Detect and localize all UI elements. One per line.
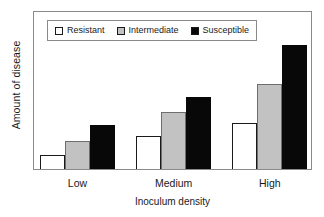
bar-intermediate-low — [65, 141, 90, 169]
bar-intermediate-high — [257, 84, 282, 169]
legend-label-intermediate: Intermediate — [129, 26, 179, 35]
x-tick-label-high: High — [259, 177, 281, 189]
bar-susceptible-low — [90, 125, 115, 169]
bar-resistant-low — [40, 155, 65, 169]
black-square-swatch — [191, 27, 199, 35]
bar-susceptible-high — [282, 45, 307, 169]
bar-intermediate-medium — [161, 112, 186, 169]
x-tick-label-low: Low — [68, 177, 87, 189]
bar-chart-figure: Amount of disease Resistant Intermediate… — [0, 0, 324, 217]
x-tick-label-medium: Medium — [155, 177, 192, 189]
white-square-swatch — [55, 27, 63, 35]
x-axis-title: Inoculum density — [33, 196, 312, 207]
chart-legend: Resistant Intermediate Susceptible — [47, 20, 257, 41]
gray-square-swatch — [117, 27, 125, 35]
legend-entry-intermediate: Intermediate — [117, 26, 179, 35]
y-axis-title: Amount of disease — [0, 0, 33, 170]
y-axis-title-label: Amount of disease — [11, 41, 23, 130]
bar-resistant-high — [232, 123, 257, 169]
plot-frame: Resistant Intermediate Susceptible — [33, 11, 312, 170]
legend-label-resistant: Resistant — [67, 26, 105, 35]
bar-susceptible-medium — [186, 97, 211, 169]
legend-entry-susceptible: Susceptible — [191, 26, 250, 35]
bar-resistant-medium — [136, 136, 161, 169]
legend-entry-resistant: Resistant — [55, 26, 105, 35]
legend-label-susceptible: Susceptible — [203, 26, 250, 35]
